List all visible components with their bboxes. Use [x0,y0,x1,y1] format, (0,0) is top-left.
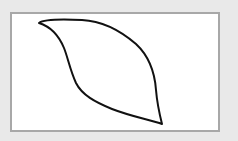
leaf-drawing [0,0,238,141]
leaf-outline-stroke [39,19,162,124]
